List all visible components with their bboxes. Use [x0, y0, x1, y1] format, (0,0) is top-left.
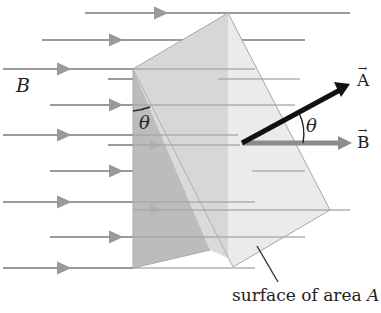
vector-b-label: → B	[357, 132, 370, 152]
vector-arrow-icon: →	[358, 62, 367, 75]
surface-caption-variable: A	[367, 285, 379, 305]
field-arrow-icon	[58, 263, 69, 273]
field-arrow-icon	[58, 64, 69, 74]
field-label-b: B	[16, 74, 30, 96]
surface-caption-text: surface of area	[232, 285, 367, 305]
theta-label-right: θ	[306, 115, 317, 136]
surface-caption: surface of area A	[232, 285, 379, 305]
vector-a-label: → A	[357, 70, 369, 90]
theta-label-left: θ	[139, 112, 150, 133]
theta-arc-right	[299, 113, 304, 143]
field-arrow-icon	[58, 130, 69, 140]
vector-arrow-icon: →	[358, 124, 367, 137]
surface-pointer-line	[257, 246, 278, 282]
field-arrow-icon	[110, 232, 121, 242]
field-arrow-icon	[110, 35, 121, 45]
magnetic-flux-diagram	[0, 0, 381, 313]
field-arrow-icon	[58, 197, 69, 207]
field-arrow-icon	[110, 100, 121, 110]
field-arrow-icon	[110, 166, 121, 176]
field-arrow-icon	[155, 8, 166, 18]
